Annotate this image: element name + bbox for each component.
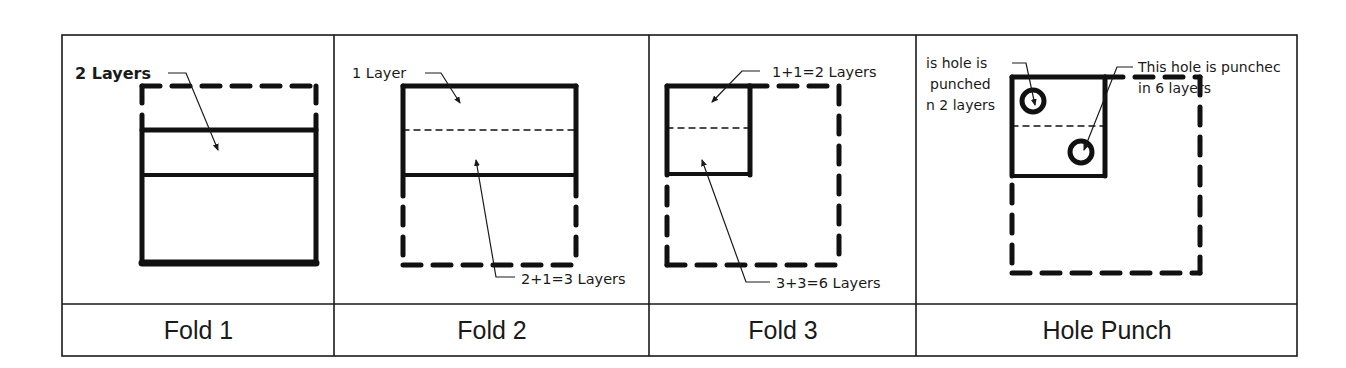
label-right-line-1: This hole is punchec	[1137, 59, 1281, 75]
label-left-line-1: is hole is	[926, 55, 987, 71]
arrow-icon	[476, 160, 515, 277]
fold-1-callout: 2 Layers	[75, 64, 218, 150]
label-left-line-3: n 2 layers	[926, 97, 995, 113]
label-1-layer: 1 Layer	[352, 65, 406, 81]
fold-3-callouts: 1+1=2 Layers 3+3=6 Layers	[702, 64, 881, 291]
punched-hole-6-layers	[1070, 141, 1092, 163]
label-1-plus-1-layers: 1+1=2 Layers	[772, 64, 877, 80]
caption-hole-punch: Hole Punch	[917, 306, 1297, 354]
caption-fold-1: Fold 1	[63, 306, 334, 354]
fold-1-drawing	[142, 86, 316, 263]
label-left-line-2: punched	[930, 76, 991, 92]
label-right-line-2: in 6 layers	[1138, 80, 1211, 96]
label-2-layers: 2 Layers	[75, 64, 151, 83]
fold-3-drawing	[667, 86, 839, 265]
paper-folding-diagram: 2 Layers 1 Layer 2+1=3 Layers 1+1=2	[0, 0, 1346, 368]
label-3-plus-3-layers: 3+3=6 Layers	[776, 275, 881, 291]
label-2-plus-1-layers: 2+1=3 Layers	[521, 271, 626, 287]
hole-punch-drawing	[1012, 77, 1200, 273]
caption-fold-3: Fold 3	[650, 306, 916, 354]
caption-fold-2: Fold 2	[335, 306, 649, 354]
